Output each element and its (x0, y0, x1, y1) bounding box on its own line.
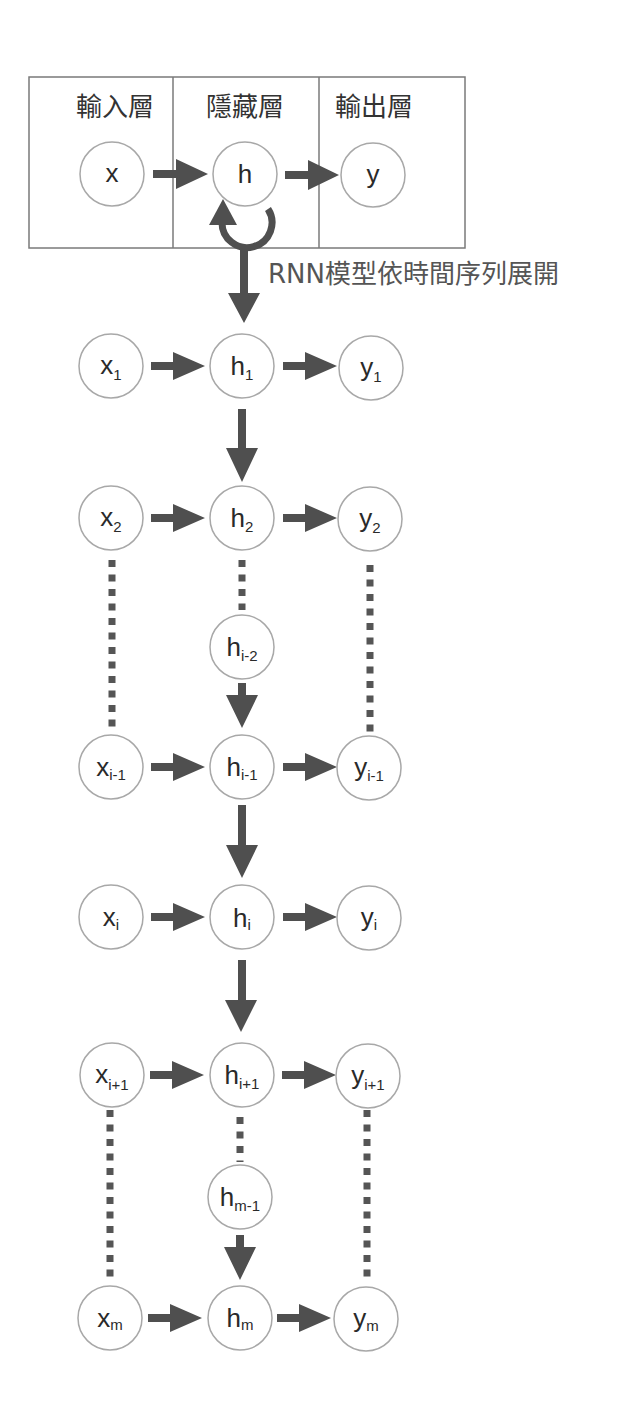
rnn-unrolled-diagram: 輸入層 隱藏層 輸出層 x h y RNN模型依時間序列展開 x1 h1 (0, 0, 628, 1412)
header-hidden-layer: 隱藏層 (206, 92, 284, 122)
row-i: xi hi yi (79, 885, 401, 950)
arrow-right-icon (285, 160, 339, 190)
arrow-right-icon (151, 753, 205, 781)
node-h-i-minus-2: hi-2 (210, 615, 274, 679)
node-x2: x2 (79, 486, 143, 550)
node-h2: h2 (210, 486, 274, 550)
node-x1: x1 (79, 334, 143, 398)
arrow-down-icon (226, 409, 258, 482)
unroll-label: RNN模型依時間序列展開 (268, 259, 559, 289)
node-label: h (238, 159, 252, 189)
node-x: x (80, 142, 144, 206)
node-h-m: hm (208, 1286, 272, 1350)
arrow-right-icon (153, 159, 208, 189)
node-h-m-minus-1: hm-1 (208, 1165, 272, 1229)
row-i-plus-1: xi+1 hi+1 yi+1 (80, 1043, 400, 1108)
arrow-right-icon (151, 504, 205, 532)
node-h-i-plus-1: hi+1 (210, 1043, 274, 1107)
arrow-down-icon (228, 247, 260, 323)
node-y: y (341, 143, 405, 207)
node-y-i: yi (337, 886, 401, 950)
arrow-right-icon (151, 352, 205, 380)
row-m: xm hm ym (78, 1286, 398, 1351)
arrow-right-icon (282, 1061, 336, 1089)
svg-text:y: y (367, 159, 380, 189)
svg-text:h: h (238, 159, 252, 189)
arrow-right-icon (283, 504, 337, 532)
node-x-i: xi (79, 885, 143, 949)
node-y-m: ym (334, 1287, 398, 1351)
arrow-right-icon (150, 1061, 204, 1089)
arrow-right-icon (148, 1304, 202, 1332)
node-label: y (367, 159, 380, 189)
node-x-i-plus-1: xi+1 (80, 1043, 144, 1107)
arrow-right-icon (283, 352, 337, 380)
node-h-i-minus-1: hi-1 (210, 735, 274, 799)
svg-text:x: x (106, 158, 119, 188)
arrow-down-icon (225, 960, 257, 1032)
node-x-i-minus-1: xi-1 (79, 735, 143, 799)
node-h1: h1 (210, 334, 274, 398)
arrow-right-icon (283, 903, 337, 931)
arrow-down-icon (226, 683, 258, 728)
row-1: x1 h1 y1 (79, 334, 403, 400)
arrow-right-icon (283, 753, 337, 781)
node-h-i: hi (210, 885, 274, 949)
arrow-right-icon (151, 903, 205, 931)
node-h: h (213, 142, 277, 206)
node-y-i-minus-1: yi-1 (337, 736, 401, 800)
arrow-right-icon (277, 1304, 331, 1332)
header-output-layer: 輸出層 (335, 92, 413, 122)
node-label: x (106, 158, 119, 188)
arrow-down-icon (224, 1235, 256, 1280)
node-x-m: xm (78, 1286, 142, 1350)
arrow-down-icon (226, 805, 258, 878)
node-y-i-plus-1: yi+1 (336, 1044, 400, 1108)
node-y2: y2 (338, 487, 402, 551)
node-y1: y1 (339, 336, 403, 400)
header-input-layer: 輸入層 (76, 92, 154, 122)
row-i-minus-1: xi-1 hi-1 yi-1 (79, 735, 401, 800)
row-2: x2 h2 y2 (79, 486, 402, 551)
